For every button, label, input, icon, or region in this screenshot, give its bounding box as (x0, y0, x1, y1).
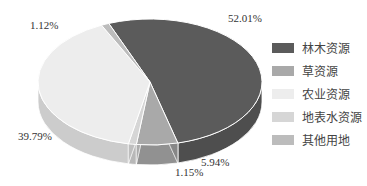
legend-swatch (272, 66, 294, 76)
legend-item-water: 地表水资源 (272, 105, 362, 128)
legend-label: 其他用地 (302, 131, 350, 148)
legend-label: 农业资源 (302, 85, 350, 102)
legend-swatch (272, 89, 294, 99)
legend-item-forest: 林木资源 (272, 36, 362, 59)
legend-item-other: 其他用地 (272, 128, 362, 151)
label-forest: 52.01% (228, 12, 262, 24)
legend-label: 林木资源 (302, 39, 350, 56)
label-grass: 5.94% (201, 156, 229, 168)
legend-label: 地表水资源 (302, 108, 362, 125)
legend-item-agri: 农业资源 (272, 82, 362, 105)
label-water: 1.15% (175, 166, 203, 178)
legend-swatch (272, 135, 294, 145)
legend-label: 草资源 (302, 62, 338, 79)
legend-swatch (272, 112, 294, 122)
legend-swatch (272, 43, 294, 53)
legend-item-grass: 草资源 (272, 59, 362, 82)
label-other: 1.12% (30, 19, 58, 31)
label-agri: 39.79% (18, 130, 52, 142)
legend: 林木资源 草资源 农业资源 地表水资源 其他用地 (272, 36, 362, 151)
